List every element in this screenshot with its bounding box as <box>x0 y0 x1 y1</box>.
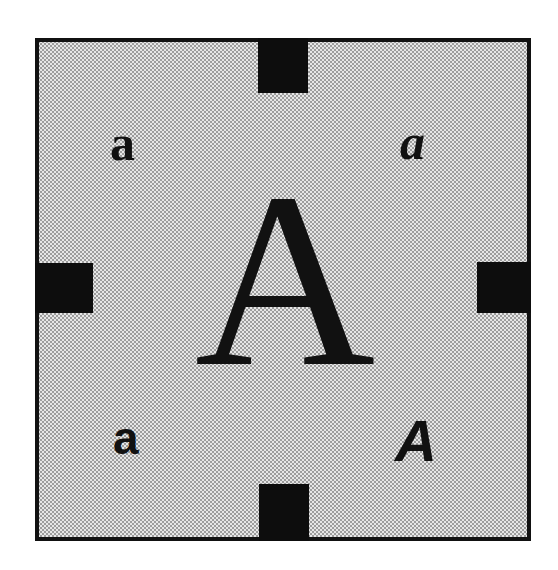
top-left-glyph-serif-bold-a: a <box>110 118 135 168</box>
right-tab-marker <box>477 262 531 313</box>
bottom-tab-marker <box>259 484 309 541</box>
top-tab-marker <box>258 38 308 93</box>
bottom-right-glyph-sans-oblique-A: A <box>395 412 437 470</box>
left-tab-marker <box>35 263 93 313</box>
top-right-glyph-serif-italic-a: a <box>400 117 425 167</box>
bottom-left-glyph-sans-bold-a: a <box>113 415 139 461</box>
center-glyph-serif-A: A <box>190 180 380 380</box>
